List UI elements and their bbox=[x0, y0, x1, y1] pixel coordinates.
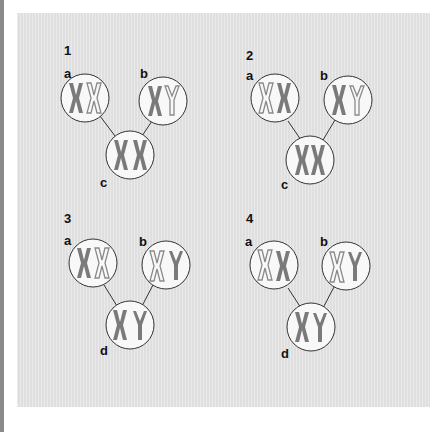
cell-d: d bbox=[281, 303, 335, 361]
panel-number: 1 bbox=[64, 43, 71, 58]
cell-b: b bbox=[139, 66, 187, 125]
panel-number: 4 bbox=[246, 211, 254, 226]
cell-c: c bbox=[100, 131, 154, 190]
panel-number: 2 bbox=[246, 48, 253, 63]
cell-label: d bbox=[100, 343, 108, 358]
cell-label: a bbox=[64, 233, 72, 248]
panel-2: 2 a b c bbox=[246, 48, 372, 192]
cell-label: d bbox=[281, 346, 289, 361]
cell-label: a bbox=[246, 68, 254, 83]
cell-label: a bbox=[245, 234, 253, 249]
cell-c: c bbox=[281, 136, 334, 192]
panel-3: 3 a b d bbox=[64, 211, 190, 358]
cell-b: b bbox=[320, 234, 370, 290]
cell-a: a bbox=[64, 233, 117, 287]
cell-label: b bbox=[320, 68, 328, 83]
cell-label: c bbox=[281, 177, 288, 192]
cell-label: b bbox=[140, 66, 148, 81]
cell-b: b bbox=[139, 234, 190, 289]
cell-d: d bbox=[100, 301, 154, 358]
cell-b: b bbox=[320, 68, 372, 124]
panel-4: 4 a b d bbox=[245, 211, 370, 361]
panel-1: 1 a b c bbox=[61, 43, 187, 190]
cell-a: a bbox=[245, 234, 298, 289]
cell-a: a bbox=[61, 66, 109, 122]
chromosome-inheritance-diagram: 1 a b c 2 a bbox=[0, 0, 445, 432]
cell-label: c bbox=[100, 175, 107, 190]
cell-label: b bbox=[320, 234, 328, 249]
cell-a: a bbox=[246, 68, 299, 122]
cell-label: b bbox=[139, 234, 147, 249]
panel-number: 3 bbox=[64, 211, 71, 226]
